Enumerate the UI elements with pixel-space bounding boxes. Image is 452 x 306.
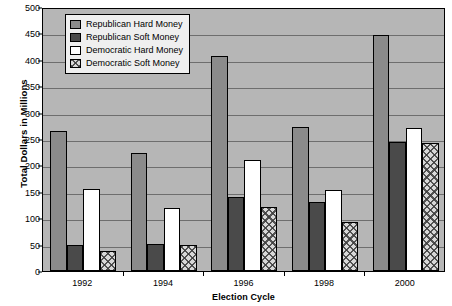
- legend-swatch: [70, 46, 81, 55]
- bar: [422, 143, 439, 271]
- y-tick-label: 350: [14, 82, 40, 92]
- y-tick-label: 0: [14, 267, 40, 277]
- x-tick-mark: [123, 272, 124, 276]
- legend-item: Democratic Hard Money: [70, 44, 183, 57]
- bar-chart: Total Dollars in Millions 05010015020025…: [0, 0, 452, 306]
- y-tick-mark: [38, 60, 42, 61]
- bar: [211, 56, 228, 271]
- x-tick-label: 1994: [133, 278, 193, 288]
- y-tick-mark: [38, 166, 42, 167]
- bar-group: [285, 9, 366, 271]
- bar: [406, 128, 423, 271]
- y-tick-label: 300: [14, 109, 40, 119]
- bar: [261, 207, 278, 271]
- legend: Republican Hard MoneyRepublican Soft Mon…: [65, 14, 190, 74]
- y-tick-label: 250: [14, 135, 40, 145]
- legend-swatch: [70, 33, 81, 42]
- x-tick-label: 1998: [294, 278, 354, 288]
- bar: [342, 222, 359, 271]
- y-tick-mark: [38, 113, 42, 114]
- x-tick-label: 1996: [214, 278, 274, 288]
- y-tick-label: 150: [14, 188, 40, 198]
- y-tick-label: 200: [14, 161, 40, 171]
- bar: [325, 190, 342, 271]
- legend-label: Republican Soft Money: [86, 33, 179, 42]
- bar: [292, 127, 309, 271]
- legend-item: Republican Hard Money: [70, 18, 183, 31]
- bar: [309, 202, 326, 271]
- bar: [83, 189, 100, 271]
- bar: [67, 245, 84, 271]
- y-tick-mark: [38, 87, 42, 88]
- y-tick-mark: [38, 192, 42, 193]
- legend-label: Democratic Hard Money: [86, 46, 183, 55]
- bar: [131, 153, 148, 271]
- bar: [100, 251, 117, 271]
- y-axis-tick-labels: 050100150200250300350400450500: [14, 0, 40, 306]
- y-tick-label: 450: [14, 29, 40, 39]
- legend-item: Republican Soft Money: [70, 31, 183, 44]
- bar: [389, 142, 406, 271]
- x-tick-mark: [364, 272, 365, 276]
- y-tick-mark: [38, 8, 42, 9]
- bar: [373, 35, 390, 271]
- y-tick-mark: [38, 219, 42, 220]
- x-tick-mark: [284, 272, 285, 276]
- bar-group: [204, 9, 285, 271]
- x-tick-label: 2000: [375, 278, 435, 288]
- bar: [147, 244, 164, 271]
- bar: [228, 197, 245, 271]
- legend-label: Democratic Soft Money: [86, 59, 180, 68]
- x-axis-title: Election Cycle: [42, 292, 445, 302]
- legend-item: Democratic Soft Money: [70, 57, 183, 70]
- legend-swatch: [70, 20, 81, 29]
- y-tick-mark: [38, 245, 42, 246]
- x-tick-mark: [203, 272, 204, 276]
- y-tick-label: 50: [14, 241, 40, 251]
- bar: [164, 208, 181, 271]
- y-tick-mark: [38, 140, 42, 141]
- bar: [50, 131, 67, 271]
- y-tick-mark: [38, 272, 42, 273]
- legend-swatch: [70, 59, 81, 68]
- y-tick-label: 500: [14, 3, 40, 13]
- x-tick-label: 1992: [52, 278, 112, 288]
- y-tick-mark: [38, 34, 42, 35]
- bar: [180, 245, 197, 271]
- y-tick-label: 100: [14, 214, 40, 224]
- y-tick-label: 400: [14, 56, 40, 66]
- bar: [244, 160, 261, 271]
- legend-label: Republican Hard Money: [86, 20, 183, 29]
- bar-group: [365, 9, 445, 271]
